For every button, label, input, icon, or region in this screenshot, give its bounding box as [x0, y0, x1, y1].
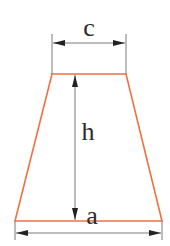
height-dimension: h — [75, 75, 95, 220]
label-c: c — [83, 13, 95, 42]
trapezoid-shape — [15, 74, 162, 221]
trapezoid-diagram: c h a — [0, 0, 170, 246]
label-a: a — [86, 201, 98, 230]
top-base-dimension: c — [52, 13, 126, 74]
label-h: h — [82, 117, 95, 146]
